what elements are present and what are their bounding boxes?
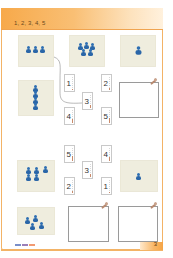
photo-4-pawns-scattered[interactable] xyxy=(17,207,55,235)
pawn-icon xyxy=(34,167,39,174)
pawn-icon xyxy=(40,46,45,53)
pawn-icon xyxy=(136,173,141,180)
page-number: 3 xyxy=(154,241,157,247)
number-card-5[interactable]: 5 xyxy=(64,145,75,163)
legend-swatch-blue xyxy=(15,244,21,246)
footer-legend xyxy=(15,244,35,246)
pawn-icon xyxy=(33,103,38,110)
number-card-5[interactable]: 5 xyxy=(101,107,112,125)
photo-1-pawn[interactable] xyxy=(120,35,156,67)
pawn-icon xyxy=(26,167,31,174)
drawing-box[interactable] xyxy=(119,82,159,118)
pawn-icon xyxy=(33,215,38,222)
photo-4-stacked[interactable] xyxy=(18,80,54,116)
worksheet-page: 1, 2, 3, 4, 5 1 2 3 4 xyxy=(0,0,173,258)
drawing-box[interactable] xyxy=(68,206,109,242)
legend-swatch-purple xyxy=(22,244,28,246)
number-card-4[interactable]: 4 xyxy=(64,107,75,125)
number-card-2[interactable]: 2 xyxy=(64,177,75,195)
pawn-icon xyxy=(26,174,31,181)
number-card-3[interactable]: 3 xyxy=(82,161,93,179)
number-card-1[interactable]: 1 xyxy=(101,177,112,195)
number-card-4[interactable]: 4 xyxy=(101,145,112,163)
photo-3-pawns[interactable] xyxy=(18,35,54,67)
pawn-icon xyxy=(34,174,39,181)
pawn-icon xyxy=(33,46,38,53)
pawn-icon xyxy=(39,222,44,229)
pawn-icon xyxy=(136,46,142,54)
photo-5-pawns[interactable] xyxy=(69,35,105,67)
pawn-icon xyxy=(84,42,89,49)
pawn-icon xyxy=(43,166,48,173)
pawn-icon xyxy=(88,49,93,56)
number-card-1[interactable]: 1 xyxy=(64,74,75,92)
photo-5-pawns-group[interactable] xyxy=(17,160,55,192)
photo-1-pawn-small[interactable] xyxy=(120,160,158,192)
drawing-box[interactable] xyxy=(118,206,158,242)
pawn-icon xyxy=(30,223,35,230)
pawn-icon xyxy=(26,46,31,53)
page-number-badge: 3 xyxy=(140,242,163,250)
number-card-2[interactable]: 2 xyxy=(101,74,112,92)
number-card-3[interactable]: 3 xyxy=(82,92,93,110)
legend-swatch-orange xyxy=(29,244,35,246)
footer-divider xyxy=(1,249,163,251)
pawn-icon xyxy=(81,49,86,56)
